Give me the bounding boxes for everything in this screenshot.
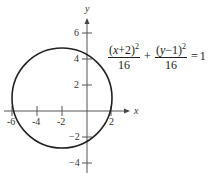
y-tick-label: 4	[74, 53, 79, 64]
x-axis-arrow-icon	[124, 109, 130, 114]
y-tick-label: −2	[69, 131, 80, 142]
y-axis-arrow-icon	[85, 18, 90, 24]
y-tick-label: −4	[69, 157, 80, 168]
equals-sign: =	[191, 49, 198, 64]
y-axis-label: y	[84, 3, 90, 14]
x-tick-label: 2	[109, 116, 114, 127]
x-ticks: -6 -4 -2 2	[7, 106, 114, 127]
plus-sign: +	[144, 49, 151, 64]
x-axis-label: x	[133, 105, 139, 116]
x-tick-label: -4	[32, 116, 40, 127]
equation-rhs: 1	[200, 49, 206, 64]
fraction-y-term: (y−1)2 16	[155, 40, 187, 72]
coordinate-plane: x y -6 -4 -2 2 6 4 2 −2 −4	[0, 0, 212, 173]
circle-equation: (x+2)2 16 + (y−1)2 16 = 1	[106, 40, 206, 72]
y-tick-label: 6	[74, 27, 79, 38]
circle-curve	[12, 48, 112, 148]
x-tick-label: -6	[7, 116, 15, 127]
fraction-x-term: (x+2)2 16	[108, 40, 140, 72]
x-tick-label: -2	[57, 116, 65, 127]
y-tick-label: 2	[74, 79, 79, 90]
